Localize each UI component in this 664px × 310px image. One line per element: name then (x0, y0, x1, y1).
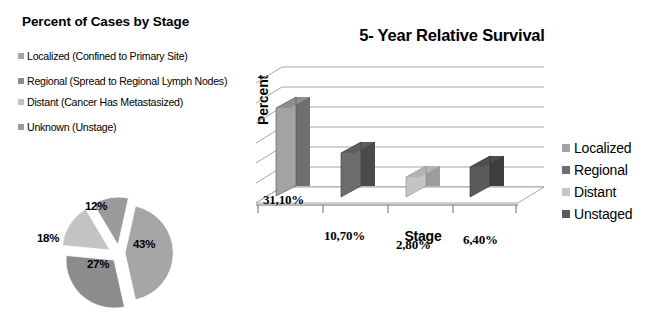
bar-legend-swatch-icon (562, 188, 570, 196)
pie-legend-label: Unknown (Unstage) (27, 121, 116, 133)
pie-value-label-unknown: 12% (85, 200, 107, 212)
pie-chart-title: Percent of Cases by Stage (22, 14, 189, 29)
bar-legend-item-localized: Localized (562, 137, 632, 159)
pie-legend-swatch-icon (18, 124, 24, 130)
bar-legend-swatch-icon (562, 210, 570, 218)
pie-slice-localized (125, 206, 173, 300)
bar-legend-label: Localized (574, 137, 631, 159)
pie-chart-panel: Percent of Cases by Stage Localized (Con… (0, 0, 250, 310)
bar-legend-swatch-icon (562, 144, 570, 152)
pie-legend-swatch-icon (18, 53, 24, 59)
pie-value-label-regional: 27% (87, 258, 109, 270)
bar-legend-item-regional: Regional (562, 159, 632, 181)
bar-chart-panel: 5- Year Relative Survival Percent (248, 0, 664, 310)
pie-value-label-distant: 18% (37, 232, 59, 244)
bar-legend-item-distant: Distant (562, 181, 632, 203)
bar-legend-item-unstaged: Unstaged (562, 203, 632, 225)
bar-chart-title: 5- Year Relative Survival (302, 26, 602, 45)
pie-legend-item-distant: Distant (Cancer Has Metastasized) (18, 96, 243, 108)
pie-chart-svg (30, 196, 215, 310)
pie-legend-item-unknown: Unknown (Unstage) (18, 121, 243, 133)
bar-legend-label: Unstaged (574, 203, 632, 225)
pie-chart-graphic: 43% 27% 18% 12% (30, 196, 215, 310)
bar-value-label-localized: 31,10% (263, 192, 304, 208)
pie-legend-label: Localized (Confined to Primary Site) (27, 50, 188, 62)
pie-legend-label: Distant (Cancer Has Metastasized) (27, 96, 183, 108)
pie-legend-item-regional: Regional (Spread to Regional Lymph Nodes… (18, 75, 243, 87)
pie-legend-swatch-icon (18, 78, 24, 84)
bar-localized (276, 97, 310, 196)
bar-legend-label: Regional (574, 159, 628, 181)
bar-legend-swatch-icon (562, 166, 570, 174)
bar-legend-label: Distant (574, 181, 616, 203)
pie-legend-label: Regional (Spread to Regional Lymph Nodes… (27, 75, 227, 87)
bar-chart-legend: Localized Regional Distant Unstaged (562, 137, 632, 225)
bar-chart-x-axis-title: Stage (298, 228, 548, 244)
pie-legend-swatch-icon (18, 99, 24, 105)
pie-legend-item-localized: Localized (Confined to Primary Site) (18, 50, 243, 62)
pie-chart-legend: Localized (Confined to Primary Site) Reg… (18, 50, 243, 134)
pie-value-label-localized: 43% (133, 238, 155, 250)
